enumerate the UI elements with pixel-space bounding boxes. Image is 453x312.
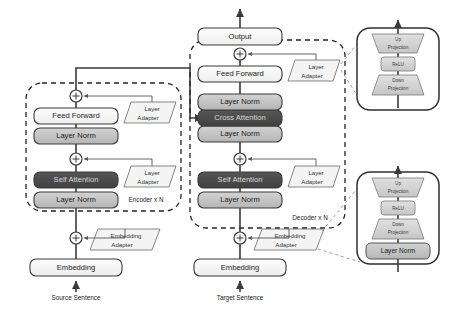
- encoder-feed-forward-label: Feed Forward: [52, 111, 99, 120]
- layer-adapter-down-projection-label-2: Projection: [388, 86, 409, 91]
- decoder-embedding-adapter-label-2: Adapter: [275, 241, 296, 248]
- source-sentence-label: Source Sentence: [51, 294, 100, 301]
- encoder-layer-adapter-upper-arrow: [84, 96, 152, 102]
- target-sentence-label: Target Sentence: [217, 294, 264, 302]
- decoder-layernorm-mid-label: Layer Norm: [220, 129, 260, 138]
- embedding-adapter-up-projection-label-1: Up: [395, 181, 401, 186]
- layer-adapter-down-projection-label-1: Down: [392, 78, 404, 83]
- embedding-adapter-down-projection-label-1: Down: [392, 222, 404, 227]
- decoder-layernorm-lower-label: Layer Norm: [220, 195, 260, 204]
- layer-adapter-relu-label: ReLU: [392, 62, 404, 67]
- encoder-self-attention-label: Self Attention: [54, 175, 99, 184]
- figure-canvas: Encoder x N Source Sentence Embedding + …: [0, 0, 453, 312]
- decoder-layer-adapter-upper-label-1: Layer: [308, 63, 323, 70]
- layer-adapter-up-projection-label-2: Projection: [388, 45, 409, 50]
- embedding-adapter-down-projection-label-2: Projection: [388, 230, 409, 235]
- decoder-layernorm-upper-label: Layer Norm: [220, 97, 260, 106]
- encoder-layernorm-lower-label: Layer Norm: [56, 195, 96, 204]
- decoder-layer-adapter-upper-arrow: [248, 54, 316, 60]
- decoder-layer-adapter-upper-label-2: Adapter: [301, 72, 322, 79]
- layer-adapter-up-projection-label-1: Up: [395, 37, 401, 42]
- encoder-layer-adapter-upper-label-1: Layer: [144, 105, 159, 112]
- decoder-layer-adapter-lower-arrow: [248, 159, 316, 166]
- encoder-embedding-label: Embedding: [57, 263, 95, 272]
- decoder-feed-forward-label: Feed Forward: [216, 69, 263, 78]
- decoder-output-label: Output: [229, 32, 253, 41]
- architecture-diagram: Encoder x N Source Sentence Embedding + …: [0, 0, 453, 312]
- decoder-self-attention-label: Self Attention: [218, 175, 263, 184]
- encoder-group-label: Encoder x N: [128, 196, 164, 203]
- decoder-layer-adapter-lower-label-2: Adapter: [301, 178, 322, 185]
- embedding-adapter-layernorm-label: Layer Norm: [381, 247, 416, 255]
- encoder-layer-adapter-lower-label-2: Adapter: [137, 178, 158, 185]
- encoder-embedding-adapter-label-2: Adapter: [111, 241, 132, 248]
- encoder-layer-adapter-upper-label-2: Adapter: [137, 114, 158, 121]
- encoder-layer-adapter-lower-arrow: [84, 159, 152, 166]
- encoder-layernorm-upper-label: Layer Norm: [56, 131, 96, 140]
- decoder-layer-adapter-lower-label-1: Layer: [308, 169, 323, 176]
- embedding-adapter-detail-connector-top: [322, 185, 360, 231]
- embedding-adapter-up-projection-label-2: Projection: [388, 189, 409, 194]
- embedding-adapter-relu-label: ReLU: [392, 206, 404, 211]
- encoder-layer-adapter-lower-label-1: Layer: [144, 169, 159, 176]
- decoder-cross-attention-label: Cross Attention: [214, 113, 266, 122]
- decoder-group-label: Decoder x N: [292, 214, 328, 221]
- embedding-adapter-detail-connector-bottom: [318, 249, 360, 262]
- decoder-embedding-label: Embedding: [221, 263, 259, 272]
